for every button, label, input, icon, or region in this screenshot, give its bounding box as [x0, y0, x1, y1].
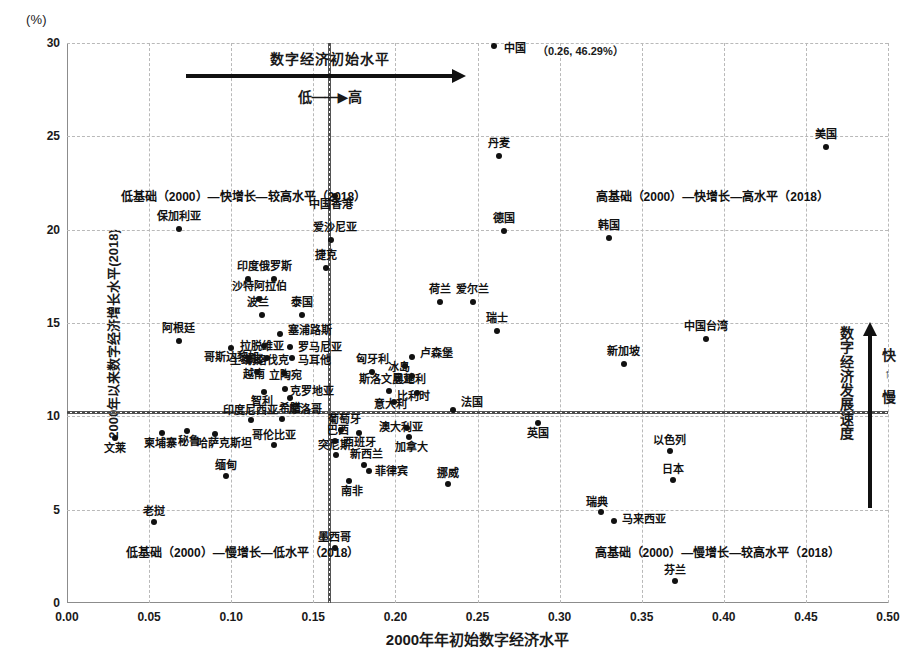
data-point-label: 德国 — [493, 213, 515, 224]
data-point[interactable] — [184, 428, 190, 434]
data-point-label: 爱沙尼亚 — [313, 222, 357, 233]
quadrant-note-top-right: 高基础（2000）—快增长—高水平（2018） — [596, 187, 829, 204]
data-point-label: 新西兰 — [350, 449, 383, 460]
data-point-label: 荷兰 — [429, 284, 451, 295]
data-point[interactable] — [496, 153, 502, 159]
data-point-label: 柬埔寨 — [144, 438, 177, 449]
data-point[interactable] — [450, 407, 456, 413]
arrow-head-glyph-icon: ▶ — [338, 89, 349, 105]
data-point-label: 马来西亚 — [622, 514, 666, 525]
y-tick-label: 0 — [53, 596, 60, 610]
data-point[interactable] — [406, 434, 412, 440]
data-point-label: 印度尼西亚 — [223, 405, 278, 416]
data-point[interactable] — [287, 344, 293, 350]
data-point[interactable] — [287, 395, 293, 401]
data-point-label: 马耳他 — [298, 355, 331, 366]
data-point[interactable] — [259, 312, 265, 318]
data-point-label: 日本 — [662, 464, 684, 475]
x-tick-label: 0.00 — [55, 610, 78, 624]
data-point-label: 斯洛文尼亚 — [359, 374, 414, 385]
reference-line-horizontal — [67, 411, 888, 414]
data-point-label: 阿根廷 — [162, 323, 195, 334]
data-point[interactable] — [361, 462, 367, 468]
data-point-label: 保加利亚 — [157, 211, 201, 222]
grid-line-horizontal — [67, 510, 888, 511]
data-point-label: 澳大利亚 — [379, 422, 423, 433]
data-point[interactable] — [248, 417, 254, 423]
data-point[interactable] — [277, 331, 283, 337]
data-point-label: 法国 — [461, 397, 483, 408]
y-tick-label: 20 — [47, 223, 60, 237]
y-tick-label: 15 — [47, 316, 60, 330]
data-point-label: 摩洛哥 — [289, 404, 322, 415]
data-point[interactable] — [176, 338, 182, 344]
data-point[interactable] — [437, 299, 443, 305]
data-point[interactable] — [299, 312, 305, 318]
data-point-label: 芬兰 — [664, 565, 686, 576]
data-point-label: 突尼斯 — [318, 440, 351, 451]
data-point-label: 英国 — [527, 428, 549, 439]
data-point[interactable] — [670, 477, 676, 483]
data-point[interactable] — [176, 226, 182, 232]
arrow-dash: —— — [312, 89, 338, 105]
data-point[interactable] — [282, 386, 288, 392]
x-tick-label: 0.30 — [548, 610, 571, 624]
up-arrow-icon: ↑ — [884, 366, 891, 381]
data-point[interactable] — [703, 336, 709, 342]
data-point[interactable] — [151, 519, 157, 525]
data-point-label: 韩国 — [598, 220, 620, 231]
y-tick-label: 10 — [47, 409, 60, 423]
data-point-label: 斯洛伐克 — [245, 355, 289, 366]
data-point[interactable] — [333, 452, 339, 458]
grid-line-horizontal — [67, 43, 888, 44]
x-tick-label: 0.05 — [137, 610, 160, 624]
initial-level-arrow-annotation: 数字经济初始水平 低——▶高 — [180, 48, 480, 118]
data-point-label: 爱尔兰 — [456, 284, 489, 295]
data-point-label: 卢森堡 — [420, 348, 453, 359]
data-point[interactable] — [159, 430, 165, 436]
data-point-label: 罗马尼亚 — [298, 342, 342, 353]
data-point[interactable] — [621, 361, 627, 367]
fast-label: 快 — [882, 344, 896, 364]
data-point[interactable] — [366, 468, 372, 474]
data-point[interactable] — [491, 43, 497, 49]
unit-label: (%) — [26, 12, 47, 27]
data-point[interactable] — [279, 416, 285, 422]
data-point-label: 巴西 — [327, 425, 349, 436]
data-point[interactable] — [611, 518, 617, 524]
data-point[interactable] — [112, 435, 118, 441]
initial-level-arrow-title: 数字经济初始水平 — [180, 48, 480, 68]
x-tick-label: 0.20 — [384, 610, 407, 624]
data-point-label: 克罗地亚 — [290, 386, 334, 397]
data-point-label: 立陶宛 — [269, 370, 302, 381]
data-point-label: 丹麦 — [488, 138, 510, 149]
x-axis-title: 2000年年初始数字经济水平 — [67, 628, 888, 649]
data-point[interactable] — [445, 481, 451, 487]
data-point[interactable] — [223, 473, 229, 479]
data-point[interactable] — [598, 509, 604, 515]
data-point[interactable] — [501, 228, 507, 234]
high-label: 高 — [348, 89, 362, 105]
initial-level-arrow-subtitle: 低——▶高 — [180, 86, 480, 106]
data-point-label: 瑞典 — [586, 497, 608, 508]
plot-area: 051015202530 0.000.050.100.150.200.250.3… — [67, 43, 888, 603]
data-point[interactable] — [289, 355, 295, 361]
data-point[interactable] — [672, 578, 678, 584]
data-point[interactable] — [823, 144, 829, 150]
data-point[interactable] — [386, 388, 392, 394]
quadrant-note-bottom-left: 低基础（2000）—慢增长—低水平（2018） — [126, 543, 359, 560]
data-point-label: 墨西哥 — [318, 532, 351, 543]
data-point[interactable] — [667, 448, 673, 454]
horizontal-arrow-head-icon — [452, 69, 466, 83]
data-point[interactable] — [494, 328, 500, 334]
data-point[interactable] — [346, 478, 352, 484]
data-point[interactable] — [328, 237, 334, 243]
data-point[interactable] — [606, 235, 612, 241]
data-point[interactable] — [271, 442, 277, 448]
china-coordinate-annotation: （0.26, 46.29%） — [537, 42, 624, 58]
data-point[interactable] — [409, 354, 415, 360]
data-point[interactable] — [535, 420, 541, 426]
data-point[interactable] — [470, 299, 476, 305]
growth-speed-arrow-annotation: 数字经济发展速度 快 ↑ 慢 — [838, 322, 908, 512]
quadrant-note-bottom-right: 高基础（2000）—慢增长—较高水平（2018） — [595, 543, 840, 560]
